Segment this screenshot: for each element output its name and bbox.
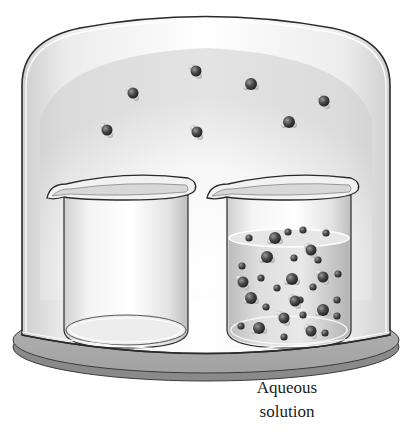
solution-beaker	[207, 175, 359, 348]
empty-beaker	[47, 175, 196, 348]
aqueous-solution-label: Aqueous solution	[217, 376, 357, 424]
label-line-1: Aqueous	[217, 376, 357, 400]
bell-jar-diagram	[0, 0, 408, 440]
aqueous-solution	[229, 238, 349, 346]
label-line-2: solution	[217, 400, 357, 424]
